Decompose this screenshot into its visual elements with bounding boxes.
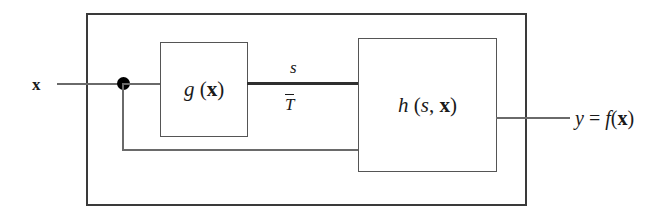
g-func-name: g	[184, 77, 195, 101]
block-diagram: x g (x) s T h (s, x) y = f(x)	[0, 0, 659, 218]
h-block-label: h (s, x)	[398, 93, 457, 118]
input-label-text: x	[32, 75, 41, 94]
junction-to-g-wire	[123, 83, 161, 85]
h-arg-comma: ,	[429, 93, 440, 117]
output-arg: x	[617, 107, 627, 129]
s-signal-wire	[247, 82, 359, 85]
g-arg: x	[207, 77, 218, 101]
threshold-label-text: T	[285, 95, 294, 114]
h-open-paren: (	[414, 93, 421, 117]
output-equals: =	[584, 107, 605, 129]
g-block[interactable]: g (x)	[160, 42, 248, 137]
h-func-name: h	[398, 93, 409, 117]
output-wire	[496, 117, 570, 119]
output-label: y = f(x)	[575, 108, 634, 128]
h-arg-s: s	[421, 93, 429, 117]
g-block-label: g (x)	[184, 77, 224, 102]
s-signal-label-text: s	[290, 58, 297, 77]
g-open-paren: (	[200, 77, 207, 101]
threshold-label: T	[285, 94, 294, 113]
output-var: y	[575, 107, 584, 129]
h-block[interactable]: h (s, x)	[358, 38, 497, 172]
feedback-vertical-wire	[122, 83, 124, 151]
s-signal-label: s	[290, 59, 297, 76]
threshold-overbar: T	[285, 94, 294, 113]
h-arg-x: x	[439, 93, 450, 117]
input-label: x	[32, 76, 41, 93]
output-close-paren: )	[627, 107, 634, 129]
h-close-paren: )	[450, 93, 457, 117]
g-close-paren: )	[217, 77, 224, 101]
feedback-horizontal-wire	[122, 149, 359, 151]
